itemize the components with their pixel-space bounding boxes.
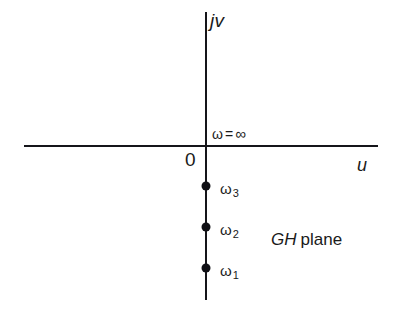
omega-infinity-annotation: ω=∞: [212, 126, 246, 141]
omega-subscript: 2: [233, 228, 239, 240]
equals-symbol: =: [225, 126, 233, 142]
infinity-symbol: ∞: [235, 125, 246, 142]
data-point-omega3-marker: [202, 182, 211, 191]
omega-symbol: ω: [220, 262, 232, 279]
origin-label: 0: [185, 150, 196, 169]
omega-symbol: ω: [220, 221, 232, 238]
plane-caption: GHplane: [271, 231, 342, 248]
omega-subscript: 3: [233, 187, 239, 199]
omega-symbol: ω: [212, 126, 223, 142]
real-axis-label: u: [357, 156, 367, 174]
data-point-omega2-marker: [202, 223, 211, 232]
omega-subscript: 1: [233, 269, 239, 281]
data-point-omega3-label: ω3: [220, 181, 238, 196]
imaginary-axis-label: jv: [210, 11, 224, 30]
data-point-omega2-label: ω2: [220, 222, 238, 237]
plane-caption-word: plane: [301, 230, 343, 249]
gh-plane-diagram: jv u 0 ω=∞ ω3 ω2 ω1 GHplane: [0, 0, 399, 314]
data-point-omega1-marker: [202, 264, 211, 273]
imaginary-axis-line: [205, 12, 207, 300]
data-point-omega1-label: ω1: [220, 263, 238, 278]
omega-symbol: ω: [220, 180, 232, 197]
real-axis-line: [24, 145, 378, 147]
plane-caption-italic: GH: [271, 230, 297, 249]
